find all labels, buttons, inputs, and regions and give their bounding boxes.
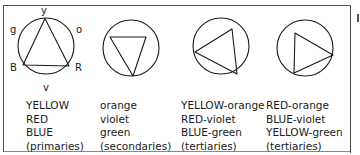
triangle-left-icon [195, 29, 237, 74]
tertiaries-2-caption: RED-orange BLUE-violet YELLOW-green (ter… [266, 99, 343, 153]
caption-line: green [100, 126, 171, 140]
caption-category: (secondaries) [100, 140, 171, 154]
primaries-wheel [18, 18, 74, 74]
caption-line: RED [26, 113, 84, 127]
caption-line: BLUE-violet [266, 113, 343, 127]
tertiaries-2-wheel [277, 20, 333, 76]
point-label-top: y [41, 5, 47, 16]
caption-line: BLUE-green [181, 126, 265, 140]
caption-category: (tertiaries) [181, 140, 265, 154]
caption-line: RED-violet [181, 113, 265, 127]
point-label-upper-right: o [76, 24, 82, 35]
triangle-down-icon [110, 37, 146, 76]
caption-category: (primaries) [26, 140, 84, 154]
triangle-right-icon [294, 33, 333, 73]
color-circle [103, 20, 159, 76]
caption-line: orange [100, 99, 171, 113]
tertiaries-1-caption: YELLOW-orange RED-violet BLUE-green (ter… [181, 99, 265, 153]
point-label-lower-right: R [75, 62, 82, 73]
triangle-up-icon [23, 19, 69, 67]
caption-line: RED-orange [266, 99, 343, 113]
point-label-upper-left: g [10, 24, 16, 35]
caption-line: YELLOW-green [266, 126, 343, 140]
caption-line: violet [100, 113, 171, 127]
caption-line: BLUE [26, 126, 84, 140]
primaries-caption: YELLOW RED BLUE (primaries) [26, 99, 84, 153]
caption-line: YELLOW-orange [181, 99, 265, 113]
tertiaries-1-wheel [193, 18, 249, 74]
point-label-bottom: v [43, 82, 49, 93]
secondaries-wheel [103, 20, 159, 76]
secondaries-caption: orange violet green (secondaries) [100, 99, 171, 153]
caption-category: (tertiaries) [266, 140, 343, 154]
caption-line: YELLOW [26, 99, 84, 113]
point-label-lower-left: B [10, 62, 17, 73]
